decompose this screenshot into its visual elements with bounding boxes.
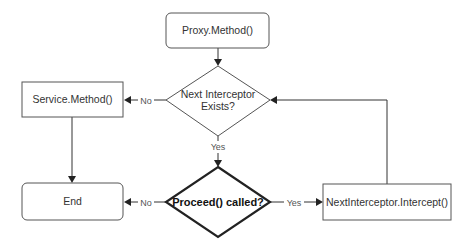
arrowhead-icon xyxy=(124,198,131,206)
edge-service-to-end xyxy=(68,117,76,183)
node-service-method: Service.Method() xyxy=(22,82,123,117)
arrowhead-icon xyxy=(68,176,76,183)
flowchart: No Yes No Yes Proxy.Method() Next I xyxy=(0,0,469,250)
edge-label-proceed-yes: Yes xyxy=(287,198,302,208)
node-proceed-called: Proceed() called? xyxy=(166,167,270,237)
edge-exists-no-to-service: No xyxy=(124,94,166,106)
node-end: End xyxy=(22,183,123,220)
edge-label-proceed-no: No xyxy=(140,198,152,208)
node-next-interceptor-intercept: NextInterceptor.Intercept() xyxy=(323,184,451,220)
node-next-interceptor-exists: Next Interceptor Exists? xyxy=(166,66,270,136)
edge-exists-yes-to-proceed: Yes xyxy=(208,136,228,167)
arrowhead-icon xyxy=(124,96,131,104)
node-proxy-method: Proxy.Method() xyxy=(166,13,269,48)
node-next-interceptor-exists-label-line2: Exists? xyxy=(201,100,235,112)
arrowhead-icon xyxy=(316,198,323,206)
node-end-label: End xyxy=(63,195,82,207)
arrowhead-icon xyxy=(270,96,277,104)
edge-proceed-no-to-end: No xyxy=(124,196,166,208)
edge-label-exists-no: No xyxy=(140,96,152,106)
node-proxy-method-label: Proxy.Method() xyxy=(182,24,253,36)
node-proceed-called-label: Proceed() called? xyxy=(172,196,264,208)
edge-proceed-yes-to-intercept: Yes xyxy=(270,196,323,208)
arrowhead-icon xyxy=(214,59,222,66)
edge-proxy-to-exists xyxy=(214,48,222,66)
node-next-interceptor-intercept-label: NextInterceptor.Intercept() xyxy=(326,196,448,208)
node-next-interceptor-exists-label-line1: Next Interceptor xyxy=(181,88,256,100)
edge-intercept-loop-to-exists xyxy=(270,96,387,184)
node-service-method-label: Service.Method() xyxy=(33,93,113,105)
edge-label-exists-yes: Yes xyxy=(211,142,226,152)
